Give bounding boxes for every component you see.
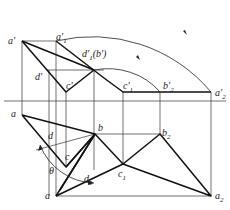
label-c-prime: c' [66,80,73,91]
edge-c1-a2-prime [104,78,211,92]
edge-c-b [66,134,95,167]
svg-text:a'2: a'2 [215,87,226,101]
label-a-prime: a' [8,35,16,46]
label-b: b [98,122,103,133]
label-theta: θ [49,165,54,176]
projection-diagram: a' a'1 d'1(b') d' c' c'1 b'2 a'2 a b d c… [0,0,230,210]
label-d: d [48,130,54,141]
label-a-bottom: a [45,190,50,201]
label-a-top: a [11,108,16,119]
label-d-prime: d' [35,71,43,82]
triangle-abc-top [22,115,95,167]
svg-text:a2: a2 [215,190,224,204]
edge-a1-b-prime [56,41,104,78]
label-b-prime: (b') [93,48,107,60]
svg-text:d'1(b'): d'1(b') [82,48,107,62]
arrow-head-outer [183,30,187,35]
true-shape-polygon [56,134,211,196]
svg-text:d1: d1 [84,173,93,187]
arrow-head-inner [136,55,140,60]
label-c: c [65,151,70,162]
svg-text:c1: c1 [118,168,126,182]
